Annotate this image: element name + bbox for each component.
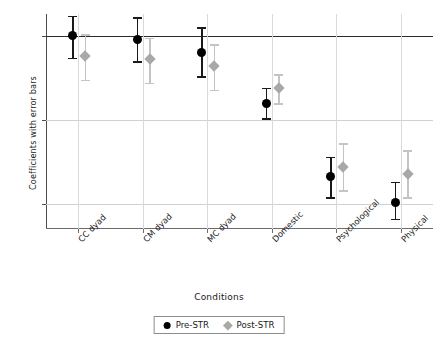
diamond-marker-icon: [224, 320, 233, 329]
x-tick-label: Domestic: [270, 237, 277, 244]
data-point-pre-str: [262, 99, 271, 108]
vertical-gridline: [78, 14, 79, 229]
data-point-post-str: [338, 161, 349, 172]
x-tick-mark: [272, 229, 273, 233]
data-point-pre-str: [133, 35, 142, 44]
error-bar-cap: [274, 103, 283, 105]
error-bar-cap: [197, 76, 206, 78]
data-point-post-str: [402, 168, 413, 179]
error-bar-cap: [81, 34, 90, 36]
error-bar-cap: [403, 150, 412, 152]
legend-label: Pre-STR: [176, 320, 209, 330]
legend: Pre-STR Post-STR: [154, 316, 285, 334]
x-tick-label: Psychological: [334, 237, 341, 244]
x-tick-mark: [401, 229, 402, 233]
x-tick-label: MC dyad: [205, 237, 212, 244]
data-point-pre-str: [68, 31, 77, 40]
horizontal-gridline: [46, 120, 433, 121]
y-tick-mark: [42, 204, 46, 205]
data-point-pre-str: [197, 48, 206, 57]
vertical-gridline: [143, 14, 144, 229]
data-point-pre-str: [326, 172, 335, 181]
legend-label: Post-STR: [237, 320, 275, 330]
x-tick-label: CM dyad: [141, 237, 148, 244]
vertical-gridline: [272, 14, 273, 229]
x-tick-label: CC dyad: [76, 237, 83, 244]
error-bar-cap: [262, 88, 271, 90]
data-point-pre-str: [391, 198, 400, 207]
data-point-post-str: [273, 82, 284, 93]
error-bar-cap: [145, 83, 154, 85]
error-bar-cap: [133, 17, 142, 19]
error-bar-cap: [339, 190, 348, 192]
error-bar-cap: [210, 44, 219, 46]
plot-area: [46, 14, 433, 229]
y-axis-title: Coefficients with error bars: [28, 48, 38, 218]
y-tick-mark: [42, 36, 46, 37]
error-bar-cap: [68, 58, 77, 60]
error-bar-cap: [391, 219, 400, 221]
error-bar-cap: [339, 143, 348, 145]
error-bar-cap: [145, 38, 154, 40]
x-tick-label: Physical: [399, 237, 406, 244]
error-bar-cap: [133, 61, 142, 63]
legend-item-pre-str[interactable]: Pre-STR: [164, 320, 209, 330]
circle-marker-icon: [164, 322, 171, 329]
error-bar-cap: [274, 74, 283, 76]
error-bar-cap: [403, 197, 412, 199]
x-axis-spine: [46, 228, 433, 229]
data-point-post-str: [144, 54, 155, 65]
error-bar-cap: [326, 197, 335, 199]
error-bar-cap: [210, 90, 219, 92]
error-bar-cap: [197, 27, 206, 29]
error-bar-cap: [81, 80, 90, 82]
x-tick-mark: [143, 229, 144, 233]
vertical-gridline: [401, 14, 402, 229]
y-axis-spine: [46, 14, 47, 229]
error-bar-cap: [326, 157, 335, 159]
coefficient-plot-figure: Coefficients with error bars 0-0.5-1 CC …: [0, 0, 438, 347]
error-bar-cap: [391, 182, 400, 184]
vertical-gridline: [336, 14, 337, 229]
data-point-post-str: [80, 50, 91, 61]
x-axis-title: Conditions: [0, 292, 438, 302]
data-point-post-str: [209, 60, 220, 71]
vertical-gridline: [207, 14, 208, 229]
legend-item-post-str[interactable]: Post-STR: [225, 320, 274, 330]
error-bar-cap: [68, 16, 77, 18]
zero-reference-line: [46, 36, 433, 37]
error-bar-cap: [262, 118, 271, 120]
y-tick-mark: [42, 120, 46, 121]
